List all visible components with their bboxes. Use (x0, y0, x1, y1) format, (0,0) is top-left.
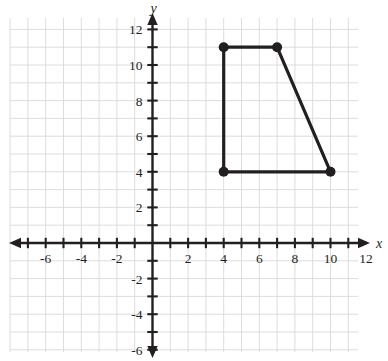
vertex-point (272, 42, 282, 52)
x-tick-label: 12 (359, 251, 373, 266)
x-tick-label: -2 (111, 251, 122, 266)
x-tick-label: 6 (256, 251, 263, 266)
y-tick-label: 8 (136, 94, 143, 109)
x-tick-label: -6 (40, 251, 51, 266)
y-tick-label: 10 (129, 58, 143, 73)
grid-lines (10, 18, 358, 352)
x-tick-label: 8 (292, 251, 299, 266)
y-axis-arrow-down (147, 346, 157, 358)
x-tick-label: 2 (185, 251, 192, 266)
y-tick-label: 4 (136, 165, 143, 180)
y-tick-label: 12 (129, 22, 143, 37)
x-tick-label: 10 (324, 251, 338, 266)
y-tick-label: 2 (136, 200, 143, 215)
vertex-point (219, 42, 229, 52)
vertex-point (326, 167, 336, 177)
y-tick-label: -4 (131, 307, 142, 322)
coordinate-plane-svg: -6-4-22468101212108642-2-4-6xy (0, 0, 388, 361)
x-tick-label: -4 (76, 251, 87, 266)
y-tick-label: 6 (136, 129, 143, 144)
coordinate-plane-figure: -6-4-22468101212108642-2-4-6xy (0, 0, 388, 361)
x-axis-label: x (375, 236, 383, 251)
tick-labels: -6-4-22468101212108642-2-4-6 (40, 22, 373, 357)
y-tick-label: -6 (131, 343, 142, 358)
x-axis-arrow-right (358, 238, 370, 248)
x-tick-label: 4 (220, 251, 227, 266)
x-axis-arrow-left (9, 238, 21, 248)
y-tick-label: -2 (131, 272, 142, 287)
y-axis-label: y (148, 1, 157, 16)
vertex-point (219, 167, 229, 177)
